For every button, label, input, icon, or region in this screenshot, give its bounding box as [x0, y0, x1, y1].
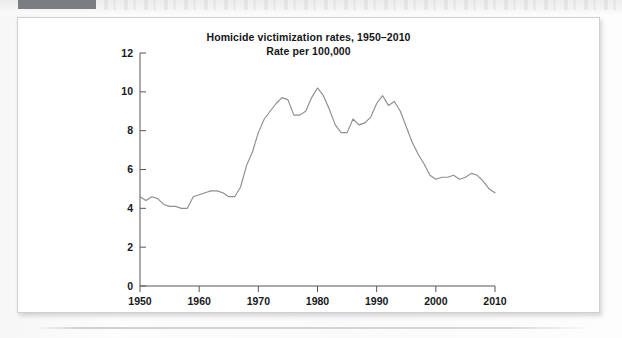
x-tick-label: 2000 [424, 295, 448, 307]
x-tick-label: 1990 [365, 295, 389, 307]
homicide-rate-line [140, 88, 495, 208]
y-tick-label: 10 [121, 85, 133, 97]
y-tick-label: 0 [127, 280, 133, 292]
x-tick-label: 1980 [306, 295, 330, 307]
x-axis-tick-labels: 1950196019701980199020002010 [128, 295, 507, 307]
y-tick-label: 8 [127, 124, 133, 136]
x-axis-ticks [140, 286, 495, 292]
x-tick-label: 2010 [483, 295, 507, 307]
x-tick-label: 1960 [187, 295, 211, 307]
y-axis: 024681012 [121, 47, 146, 292]
figure-container: Homicide victimization rates, 1950–2010 … [17, 17, 600, 313]
y-tick-label: 6 [127, 163, 133, 175]
y-axis-tick-labels: 024681012 [121, 47, 133, 292]
x-tick-label: 1950 [128, 295, 152, 307]
redaction-bar [18, 0, 96, 9]
x-axis: 1950196019701980199020002010 [128, 286, 507, 307]
faint-scanned-text [104, 0, 616, 10]
line-chart-plot: 024681012 1950196019701980199020002010 [18, 18, 601, 314]
y-axis-ticks [140, 53, 146, 286]
page-bottom-rule [36, 327, 592, 329]
y-tick-label: 12 [121, 47, 133, 59]
y-tick-label: 2 [127, 241, 133, 253]
y-tick-label: 4 [127, 202, 133, 214]
chart-svg: 024681012 1950196019701980199020002010 [18, 18, 601, 314]
x-tick-label: 1970 [247, 295, 271, 307]
